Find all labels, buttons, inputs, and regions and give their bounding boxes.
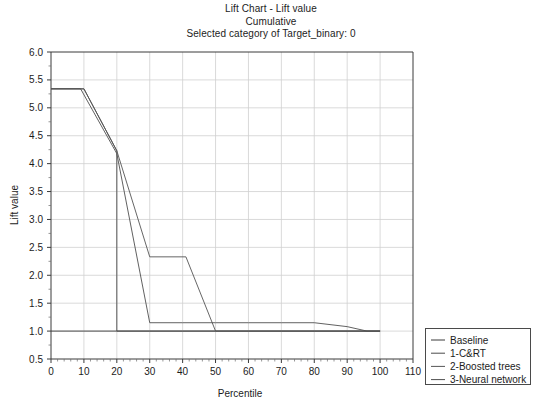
y-tick-label: 4.0 xyxy=(29,158,43,169)
x-tick-label: 100 xyxy=(372,366,389,377)
y-tick-label: 4.5 xyxy=(29,130,43,141)
lift-chart: Lift Chart - Lift value Cumulative Selec… xyxy=(0,0,542,412)
plot-area: 0.51.01.52.02.53.03.54.04.55.05.56.0 010… xyxy=(0,0,542,412)
legend-label-3: 3-Neural network xyxy=(450,374,527,385)
x-tick-label: 50 xyxy=(210,366,222,377)
y-tick-label: 5.0 xyxy=(29,102,43,113)
x-tick-label: 110 xyxy=(405,366,421,377)
axis-lines xyxy=(51,52,413,359)
y-tick-label: 2.0 xyxy=(29,270,43,281)
legend-label-0: Baseline xyxy=(450,335,489,346)
y-tick-label: 2.5 xyxy=(29,242,43,253)
x-axis-tick-labels: 0102030405060708090100110 xyxy=(48,366,421,377)
x-tick-label: 60 xyxy=(243,366,255,377)
x-tick-label: 20 xyxy=(111,366,123,377)
grid-lines xyxy=(51,52,413,359)
y-tick-label: 1.5 xyxy=(29,298,43,309)
y-axis-tick-labels: 0.51.01.52.02.53.03.54.04.55.05.56.0 xyxy=(29,47,43,365)
x-tick-label: 80 xyxy=(309,366,321,377)
x-tick-label: 40 xyxy=(177,366,189,377)
legend: Baseline1-C&RT2-Boosted trees3-Neural ne… xyxy=(426,329,531,386)
y-tick-label: 0.5 xyxy=(29,354,43,365)
legend-label-2: 2-Boosted trees xyxy=(450,361,521,372)
y-tick-label: 5.5 xyxy=(29,74,43,85)
legend-label-1: 1-C&RT xyxy=(450,348,486,359)
x-tick-label: 10 xyxy=(78,366,90,377)
x-tick-label: 90 xyxy=(342,366,354,377)
axis-ticks xyxy=(47,52,413,363)
y-tick-label: 1.0 xyxy=(29,326,43,337)
y-tick-label: 6.0 xyxy=(29,47,43,58)
y-tick-label: 3.0 xyxy=(29,214,43,225)
x-tick-label: 30 xyxy=(144,366,156,377)
x-tick-label: 70 xyxy=(276,366,288,377)
x-tick-label: 0 xyxy=(48,366,54,377)
y-axis-title: Lift value xyxy=(9,185,20,225)
y-tick-label: 3.5 xyxy=(29,186,43,197)
x-axis-title: Percentile xyxy=(218,388,263,399)
